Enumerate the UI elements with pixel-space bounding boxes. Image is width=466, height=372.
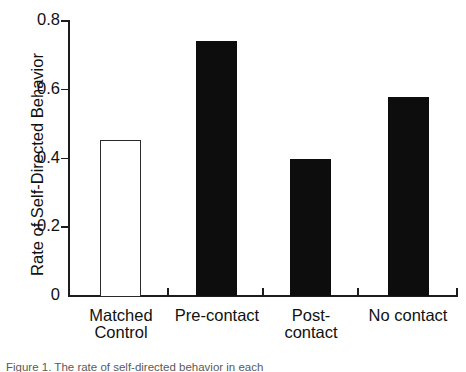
y-tick-label-0.2: 0.2 — [16, 217, 60, 234]
x-category-label-no-contact: No contact — [352, 307, 464, 324]
x-category-label-pre-contact: Pre-contact — [159, 307, 275, 324]
y-tick-label-0: 0 — [16, 286, 60, 303]
x-tick-mark-3 — [357, 288, 359, 295]
y-tick-mark-0.8 — [61, 20, 68, 22]
bar-post-contact — [290, 159, 331, 296]
bar-matched-control — [100, 140, 141, 296]
bar-pre-contact — [196, 41, 237, 297]
figure-caption: Figure 1. The rate of self-directed beha… — [6, 361, 266, 372]
y-tick-label-0.8: 0.8 — [16, 11, 60, 28]
y-tick-mark-0.6 — [61, 89, 68, 91]
x-tick-mark-4 — [456, 288, 458, 295]
x-category-label-post-contact: Post- contact — [262, 307, 360, 341]
x-tick-mark-2 — [262, 288, 264, 295]
y-tick-label-0.6: 0.6 — [16, 80, 60, 97]
y-tick-label-0.4: 0.4 — [16, 149, 60, 166]
bar-no-contact — [388, 97, 429, 296]
x-tick-mark-1 — [167, 288, 169, 295]
y-tick-mark-0.2 — [61, 226, 68, 228]
y-axis-line — [68, 20, 70, 297]
y-tick-mark-0.4 — [61, 158, 68, 160]
